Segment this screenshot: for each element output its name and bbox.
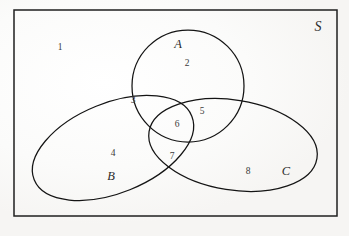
region-number-5: 5 [200, 107, 205, 117]
set-a-circle [132, 30, 244, 142]
set-a-label: A [174, 38, 182, 51]
venn-diagram-canvas [0, 0, 349, 236]
region-number-2: 2 [185, 59, 190, 69]
set-c-label: C [282, 165, 290, 178]
region-number-8: 8 [246, 167, 251, 177]
set-c-ellipse [142, 87, 324, 202]
universal-set-label: S [315, 20, 322, 34]
venn-diagram-figure: S A B C 1 2 3 4 5 6 7 8 [0, 0, 349, 236]
region-number-4: 4 [111, 149, 116, 159]
region-number-6: 6 [175, 120, 180, 130]
set-b-label: B [107, 170, 115, 183]
region-number-1: 1 [58, 43, 63, 53]
region-number-3: 3 [131, 96, 136, 106]
region-number-7: 7 [170, 152, 175, 162]
